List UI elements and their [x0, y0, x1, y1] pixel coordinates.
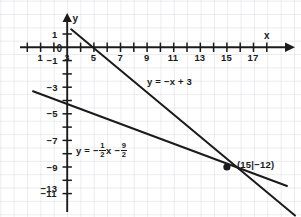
x-tick-label-9: 9	[144, 53, 149, 63]
intersection-point-marker	[223, 163, 230, 170]
intersection-point-label: (15|−12)	[237, 160, 274, 170]
x-tick-label-1: 1	[38, 53, 43, 63]
y-tick-label-minus-1: −1	[47, 56, 58, 66]
origin-label: 0	[57, 44, 63, 54]
y-tick-label-minus-5: −5	[47, 109, 58, 119]
equation-label-line2: y = −12x −92	[76, 142, 128, 158]
x-tick-label-17: 17	[248, 53, 259, 63]
equation-label-line1: y = −x + 3	[147, 77, 192, 87]
y-tick-label-1: 1	[52, 30, 57, 40]
x-tick-label-3: 3	[64, 53, 69, 63]
coordinate-graph-figure: )	[0, 0, 301, 217]
x-tick-label-7: 7	[117, 53, 122, 63]
y-tick-label-minus-9: −9	[47, 163, 58, 173]
y-tick-label-minus-7: −7	[47, 136, 58, 146]
x-tick-label-11: 11	[168, 53, 178, 63]
x-tick-label-15: 15	[221, 53, 232, 63]
y-axis-name-label: y	[73, 14, 79, 24]
fraction-nine-halves: 92	[121, 142, 127, 158]
fraction-one-half: 12	[99, 142, 105, 158]
x-axis-name-label: x	[264, 31, 270, 41]
x-tick-label-5: 5	[91, 53, 96, 63]
y-tick-label-minus-3: −3	[47, 83, 58, 93]
y-tick-label-minus-13: −13	[41, 184, 58, 194]
equation2-mid: x −	[106, 145, 120, 156]
equation2-prefix: y = −	[76, 145, 99, 156]
x-tick-label-13: 13	[194, 53, 205, 63]
